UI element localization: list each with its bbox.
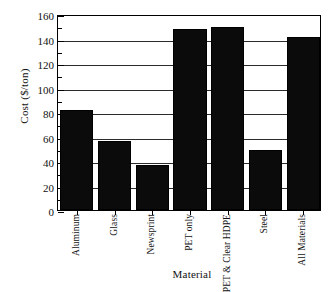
x-axis-title: Material [0, 268, 332, 280]
y-tick-label: 40 [43, 157, 54, 169]
x-category-label-text: Newsprint [146, 214, 156, 254]
bar [249, 150, 282, 210]
x-category-label-text: PET only [184, 214, 194, 251]
y-tick-major [58, 212, 64, 213]
x-category-label-text: Aluminum [71, 214, 81, 256]
bar [173, 29, 206, 210]
plot-area: 020406080100120140160 [57, 15, 321, 211]
bar-series [58, 16, 320, 210]
bar [60, 110, 93, 210]
y-tick-label: 100 [38, 84, 55, 96]
y-tick-label: 80 [43, 108, 54, 120]
y-tick-label: 160 [38, 10, 55, 22]
bar [211, 27, 244, 210]
x-category-label-text: Glass [109, 214, 119, 236]
y-tick-label: 140 [38, 35, 55, 47]
y-axis-title: Cost ($/ton) [18, 26, 30, 166]
x-category-label-text: PET & Clear HDPE [222, 214, 232, 292]
x-category-label-text: Steel [259, 214, 269, 234]
x-axis-title-text: Material [173, 268, 212, 280]
x-category-label-text: All Materials [297, 214, 307, 266]
y-tick-label: 120 [38, 59, 55, 71]
bar [98, 141, 131, 210]
bar [287, 37, 320, 210]
bar [136, 165, 169, 210]
y-tick-label: 60 [43, 133, 54, 145]
y-tick-label: 0 [49, 206, 55, 218]
y-tick-label: 20 [43, 182, 54, 194]
